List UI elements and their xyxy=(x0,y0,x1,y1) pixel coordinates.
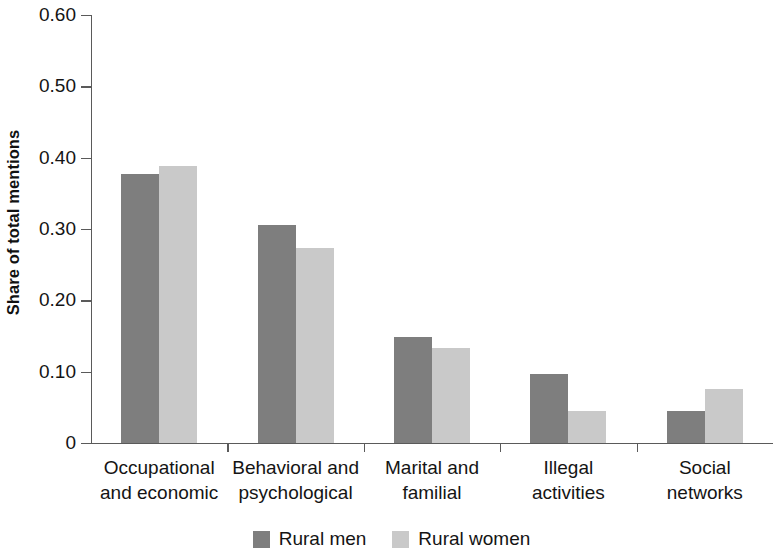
x-axis-category-label-line: Behavioral and xyxy=(227,455,363,480)
bar xyxy=(530,374,568,443)
y-axis-tick xyxy=(81,15,91,16)
x-axis-category-label: Marital andfamilial xyxy=(364,455,500,505)
x-axis-tick xyxy=(364,443,365,452)
y-axis-tick-label: 0 xyxy=(0,432,76,454)
x-axis-category-label-line: and economic xyxy=(91,480,227,505)
bar xyxy=(705,389,743,443)
y-axis-tick-label: 0.50 xyxy=(0,75,76,97)
y-axis-tick-label: 0.60 xyxy=(0,4,76,26)
y-axis-tick xyxy=(81,300,91,301)
x-axis-category-label-line: familial xyxy=(364,480,500,505)
legend-swatch-icon xyxy=(253,531,270,548)
legend-item[interactable]: Rural women xyxy=(392,528,530,550)
y-axis-tick-label: 0.30 xyxy=(0,218,76,240)
y-axis-tick xyxy=(81,229,91,230)
bar xyxy=(296,248,334,444)
x-axis-tick xyxy=(227,443,228,452)
y-axis-tick-label: 0.10 xyxy=(0,361,76,383)
bar xyxy=(258,225,296,443)
legend-label: Rural men xyxy=(279,528,367,550)
x-axis-category-label-line: networks xyxy=(637,480,773,505)
bar-chart-figure: Share of total mentions 0.600.500.400.30… xyxy=(0,0,783,560)
bar xyxy=(568,411,606,443)
x-axis-category-label-line: psychological xyxy=(227,480,363,505)
x-axis-category-label-line: Social xyxy=(637,455,773,480)
plot-area xyxy=(91,15,773,443)
y-axis-line xyxy=(91,15,92,443)
y-axis-tick xyxy=(81,443,91,444)
legend-label: Rural women xyxy=(418,528,530,550)
bar xyxy=(667,411,705,443)
y-axis-tick xyxy=(81,158,91,159)
legend-swatch-icon xyxy=(392,531,409,548)
bar xyxy=(432,348,470,443)
x-axis-category-label: Socialnetworks xyxy=(637,455,773,505)
x-axis-line xyxy=(81,443,773,444)
bar xyxy=(159,166,197,443)
x-axis-tick xyxy=(500,443,501,452)
y-axis-tick-labels: 0.600.500.400.300.200.100 xyxy=(0,15,76,443)
x-axis-category-label: Illegalactivities xyxy=(500,455,636,505)
x-axis-category-label-line: Marital and xyxy=(364,455,500,480)
legend-item[interactable]: Rural men xyxy=(253,528,367,550)
chart-legend: Rural menRural women xyxy=(0,528,783,550)
x-axis-category-label-line: Occupational xyxy=(91,455,227,480)
bar xyxy=(394,337,432,443)
bar xyxy=(121,174,159,443)
x-axis-category-label-line: Illegal xyxy=(500,455,636,480)
x-axis-category-label: Behavioral andpsychological xyxy=(227,455,363,505)
y-axis-tick xyxy=(81,86,91,87)
y-axis-tick-label: 0.40 xyxy=(0,147,76,169)
x-axis-category-label-line: activities xyxy=(500,480,636,505)
x-axis-category-label: Occupationaland economic xyxy=(91,455,227,505)
x-axis-tick xyxy=(637,443,638,452)
y-axis-tick-label: 0.20 xyxy=(0,289,76,311)
x-axis-category-labels: Occupationaland economicBehavioral andps… xyxy=(91,455,783,515)
y-axis-tick xyxy=(81,372,91,373)
